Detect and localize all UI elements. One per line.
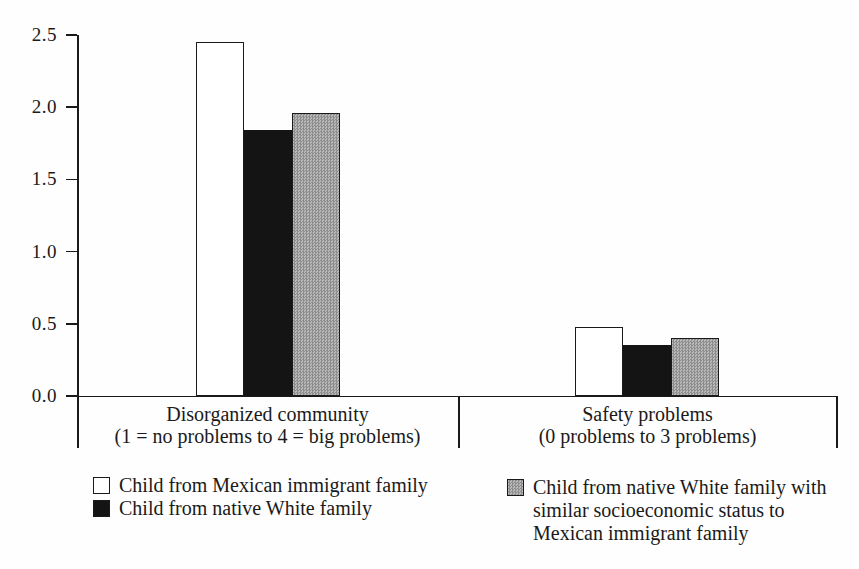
legend-label: Child from Mexican immigrant family	[119, 474, 428, 497]
legend-swatch-gray	[507, 479, 524, 496]
bar-white-group2	[575, 327, 623, 396]
y-axis-tick	[66, 323, 77, 325]
bar-chart-figure: Disorganized community (1 = no problems …	[0, 0, 859, 569]
legend-swatch-white	[93, 477, 110, 494]
bar-black-group2	[623, 345, 671, 396]
legend-label: Child from native White family	[119, 497, 372, 520]
category-label-safety-problems: Safety problems (0 problems to 3 problem…	[458, 403, 837, 447]
legend-label: Child from native White family with simi…	[533, 476, 826, 545]
y-axis-line	[77, 35, 79, 448]
y-axis-tick-label: 0.0	[16, 385, 57, 407]
legend-item-mexican-immigrant: Child from Mexican immigrant family	[93, 474, 428, 497]
legend-item-native-white-similar-ses: Child from native White family with simi…	[507, 476, 826, 545]
legend-column-right: Child from native White family with simi…	[507, 476, 826, 545]
y-axis-tick	[66, 251, 77, 253]
y-axis-tick-label: 1.0	[16, 241, 57, 263]
bar-black-group1	[244, 130, 292, 396]
y-axis-tick-label: 1.5	[16, 168, 57, 190]
y-axis-tick-label: 2.0	[16, 96, 57, 118]
y-axis-tick	[66, 106, 77, 108]
y-axis-tick	[66, 34, 77, 36]
category-label-disorganized-community: Disorganized community (1 = no problems …	[77, 403, 458, 447]
legend-swatch-black	[93, 500, 110, 517]
y-axis-tick-label: 0.5	[16, 313, 57, 335]
y-axis-tick	[66, 179, 77, 181]
bar-gray-group2	[671, 338, 719, 396]
y-axis-tick-label: 2.5	[16, 24, 57, 46]
bar-white-group1	[196, 42, 244, 396]
y-axis-tick	[66, 395, 77, 397]
legend-item-native-white: Child from native White family	[93, 497, 428, 520]
legend-column-left: Child from Mexican immigrant family Chil…	[93, 474, 428, 520]
bar-gray-group1	[292, 113, 340, 396]
